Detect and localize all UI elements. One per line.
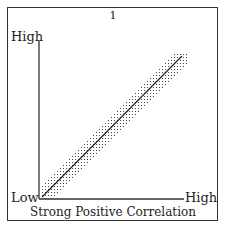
trend-line bbox=[42, 56, 182, 197]
scatter-plot bbox=[0, 0, 226, 226]
scatter-points bbox=[42, 54, 187, 199]
